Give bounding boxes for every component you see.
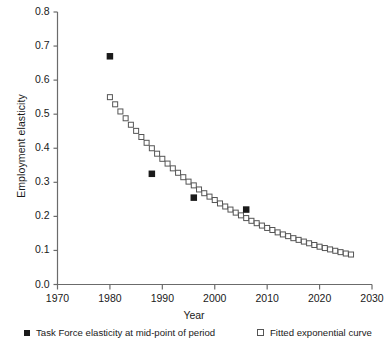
legend-label-task-force: Task Force elasticity at mid-point of pe… — [36, 327, 215, 338]
fitted-curve-marker — [191, 183, 196, 188]
fitted-curve-marker — [107, 95, 112, 100]
task-force-marker — [243, 206, 250, 213]
y-tick-label: 0.1 — [6, 243, 50, 255]
fitted-curve-marker — [149, 146, 154, 151]
fitted-curve-marker — [254, 221, 259, 226]
x-axis-title: Year — [0, 309, 388, 321]
fitted-curve-marker — [312, 242, 317, 247]
fitted-curve-marker — [333, 248, 338, 253]
fitted-curve-marker — [338, 250, 343, 255]
fitted-curve-marker — [307, 241, 312, 246]
chart-figure: 0.00.10.20.30.40.50.60.70.8 197019801990… — [0, 0, 388, 343]
fitted-curve-marker — [113, 102, 118, 107]
x-tick-label: 2030 — [347, 292, 388, 304]
fitted-curve-marker — [233, 210, 238, 215]
task-force-marker — [107, 53, 114, 60]
fitted-curve-marker — [212, 198, 217, 203]
y-axis-title: Employment elasticity — [15, 66, 27, 226]
fitted-curve-marker — [228, 207, 233, 212]
fitted-curve-marker — [118, 109, 123, 114]
fitted-curve-marker — [186, 179, 191, 184]
fitted-curve-marker — [144, 140, 149, 145]
x-axis-ticks — [58, 285, 373, 290]
fitted-curve-marker — [197, 187, 202, 192]
y-tick-label: 0.5 — [6, 107, 50, 119]
y-tick-label: 0.6 — [6, 73, 50, 85]
y-tick-label: 0.8 — [6, 5, 50, 17]
fitted-curve-marker — [322, 246, 327, 251]
fitted-curve-marker — [291, 236, 296, 241]
y-tick-label: 0.0 — [6, 278, 50, 290]
fitted-curve-marker — [265, 225, 270, 230]
legend-item-task-force: Task Force elasticity at mid-point of pe… — [24, 327, 215, 338]
open-square-icon — [257, 329, 264, 336]
filled-square-icon — [24, 330, 30, 336]
fitted-curve-marker — [202, 191, 207, 196]
y-tick-label: 0.3 — [6, 175, 50, 187]
fitted-curve-marker — [275, 230, 280, 235]
fitted-curve-marker — [296, 237, 301, 242]
fitted-curve-marker — [176, 170, 181, 175]
fitted-curve-marker — [207, 194, 212, 199]
fitted-curve-marker — [181, 175, 186, 180]
fitted-curve-marker — [160, 156, 165, 161]
y-tick-label: 0.4 — [6, 141, 50, 153]
task-force-marker — [191, 194, 198, 201]
y-tick-label: 0.2 — [6, 209, 50, 221]
fitted-curve-marker — [301, 239, 306, 244]
x-tick-label: 2000 — [190, 292, 240, 304]
fitted-curve-marker — [249, 218, 254, 223]
fitted-curve-marker — [238, 213, 243, 218]
fitted-curve-marker — [349, 252, 354, 257]
x-tick-label: 2010 — [242, 292, 292, 304]
x-tick-label: 1970 — [33, 292, 83, 304]
fitted-curve-marker — [165, 161, 170, 166]
series-task-force-elasticity — [107, 53, 250, 213]
axes-lines — [57, 12, 372, 285]
fitted-curve-marker — [270, 228, 275, 233]
chart-legend: Task Force elasticity at mid-point of pe… — [0, 327, 388, 343]
fitted-curve-marker — [170, 166, 175, 171]
legend-item-fitted-curve: Fitted exponential curve — [257, 327, 372, 338]
x-tick-label: 2020 — [295, 292, 345, 304]
fitted-curve-marker — [128, 122, 133, 127]
fitted-curve-marker — [280, 232, 285, 237]
fitted-curve-marker — [286, 234, 291, 239]
fitted-curve-marker — [223, 204, 228, 209]
x-tick-label: 1990 — [137, 292, 187, 304]
task-force-marker — [149, 171, 156, 178]
y-tick-label: 0.7 — [6, 39, 50, 51]
fitted-curve-marker — [134, 128, 139, 133]
fitted-curve-marker — [139, 135, 144, 140]
fitted-curve-marker — [328, 247, 333, 252]
fitted-curve-marker — [123, 116, 128, 121]
series-fitted-exponential-curve — [107, 95, 353, 257]
fitted-curve-marker — [155, 151, 160, 156]
fitted-curve-marker — [343, 251, 348, 256]
fitted-curve-marker — [217, 201, 222, 206]
x-tick-label: 1980 — [85, 292, 135, 304]
legend-label-fitted-curve: Fitted exponential curve — [270, 327, 372, 338]
fitted-curve-marker — [259, 223, 264, 228]
fitted-curve-marker — [244, 216, 249, 221]
fitted-curve-marker — [317, 244, 322, 249]
